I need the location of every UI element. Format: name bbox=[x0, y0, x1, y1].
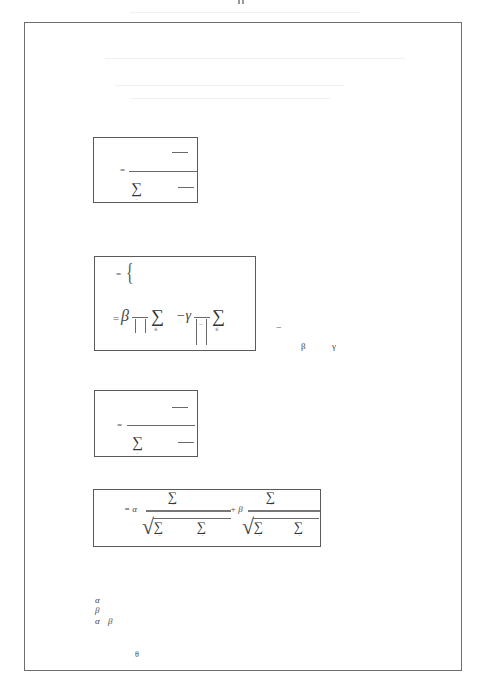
equals-sign: = bbox=[117, 421, 122, 430]
equation-box-1: = ∑ = bbox=[93, 137, 198, 203]
faint-header-line bbox=[130, 12, 360, 13]
abs-bar-right bbox=[206, 319, 207, 345]
symbol-beta: β bbox=[95, 606, 99, 615]
faint-text-line bbox=[115, 85, 345, 86]
sigma-symbol: ∑ bbox=[212, 307, 225, 325]
sigma-subscript: = bbox=[270, 502, 273, 507]
sqrt-overbar bbox=[153, 518, 231, 519]
bar-mark: − bbox=[199, 322, 203, 329]
sigma-subscript: = bbox=[136, 451, 139, 456]
numerator-overbar bbox=[172, 152, 188, 153]
abs-bar-left bbox=[196, 319, 197, 345]
sigma-subscript: = bbox=[158, 533, 161, 538]
equals-sign: = bbox=[113, 313, 119, 324]
sigma-symbol: ∑ bbox=[294, 520, 303, 533]
faint-text-line bbox=[130, 98, 330, 99]
sigma-subscript: = bbox=[135, 197, 138, 202]
equation-box-3: = ∑ = bbox=[94, 390, 198, 457]
fraction-bar bbox=[194, 317, 210, 318]
fraction-bar bbox=[132, 317, 148, 318]
symbol-theta: θ bbox=[135, 651, 139, 659]
numerator-overbar bbox=[172, 407, 188, 408]
sqrt-symbol: √ bbox=[142, 516, 154, 538]
side-gamma-symbol: γ bbox=[332, 342, 336, 351]
sigma-subscript: = bbox=[172, 502, 175, 507]
sigma-subscript: = bbox=[258, 533, 261, 538]
sqrt-symbol: √ bbox=[242, 516, 254, 538]
equation-box-4: = α ∑ = √ ∑ = ∑ = + β ∑ = √ ∑ = ∑ = bbox=[93, 489, 321, 547]
sigma-symbol: ∑ bbox=[151, 307, 164, 325]
sigma-symbol: ∑ bbox=[131, 181, 142, 196]
side-dash: − bbox=[276, 323, 282, 333]
left-brace: { bbox=[126, 259, 133, 285]
sigma-subscript: ∈ bbox=[215, 327, 219, 332]
equals-sign: = bbox=[120, 166, 125, 175]
sigma-symbol: ∑ bbox=[197, 520, 206, 533]
equals-sign: = bbox=[116, 270, 121, 279]
sigma-symbol: ∑ bbox=[154, 520, 163, 533]
abs-bar-right bbox=[145, 319, 146, 333]
fraction-bar-right bbox=[248, 510, 320, 512]
abs-bar-left bbox=[135, 319, 136, 333]
fraction-bar-left bbox=[146, 510, 231, 512]
symbol-alpha: α bbox=[95, 617, 100, 626]
denominator-overbar bbox=[178, 442, 194, 443]
plus-beta: + β bbox=[230, 505, 243, 514]
minus-gamma: −γ bbox=[176, 309, 191, 323]
page-top-mark bbox=[236, 0, 246, 4]
sigma-subscript: ∈ bbox=[154, 327, 158, 332]
sigma-subscript: = bbox=[201, 533, 204, 538]
faint-text-line bbox=[105, 58, 405, 59]
equals-alpha: = α bbox=[124, 505, 137, 514]
equation-box-2: = { = β ∑ ∈ −γ − ∑ ∈ bbox=[94, 256, 256, 351]
sigma-subscript: = bbox=[298, 533, 301, 538]
symbol-alpha: α bbox=[95, 596, 100, 605]
fraction-bar bbox=[129, 171, 197, 172]
fraction-bar bbox=[127, 425, 195, 426]
denominator-overbar bbox=[178, 187, 194, 188]
side-beta-symbol: β bbox=[301, 342, 306, 351]
sigma-symbol: ∑ bbox=[132, 435, 143, 450]
beta-symbol: β bbox=[121, 308, 129, 324]
symbol-beta: β bbox=[108, 617, 112, 626]
sigma-symbol: ∑ bbox=[254, 520, 263, 533]
